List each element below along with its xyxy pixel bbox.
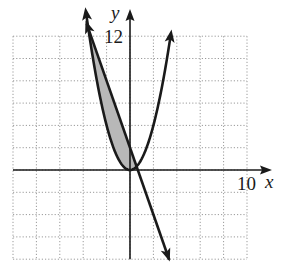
x-axis-label: x <box>264 171 274 192</box>
y-axis-label: y <box>109 2 120 23</box>
line-curve <box>87 24 169 260</box>
axes <box>13 9 272 259</box>
arrowheads <box>82 7 174 261</box>
x-tick-label-10: 10 <box>237 173 256 194</box>
graph: y 12 10 x <box>0 0 285 265</box>
y-tick-label-12: 12 <box>104 26 123 47</box>
